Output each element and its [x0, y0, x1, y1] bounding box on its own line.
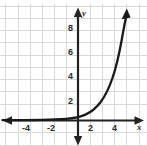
y-tick-label-6: 6	[68, 48, 73, 57]
y-tick-label-8: 8	[68, 24, 73, 33]
x-tick-label-4: 4	[112, 124, 117, 133]
x-axis-label: x	[137, 123, 142, 132]
y-tick-label-2: 2	[68, 97, 73, 106]
y-tick-label-4: 4	[68, 72, 73, 81]
x-tick-label-neg2: -2	[47, 124, 55, 133]
x-tick-label-2: 2	[88, 124, 93, 133]
x-tick-label-neg4: -4	[22, 124, 30, 133]
y-axis-label: y	[82, 9, 86, 18]
coordinate-graph-figure: -4 -2 2 4 2 4 6 8 y x	[0, 0, 147, 146]
